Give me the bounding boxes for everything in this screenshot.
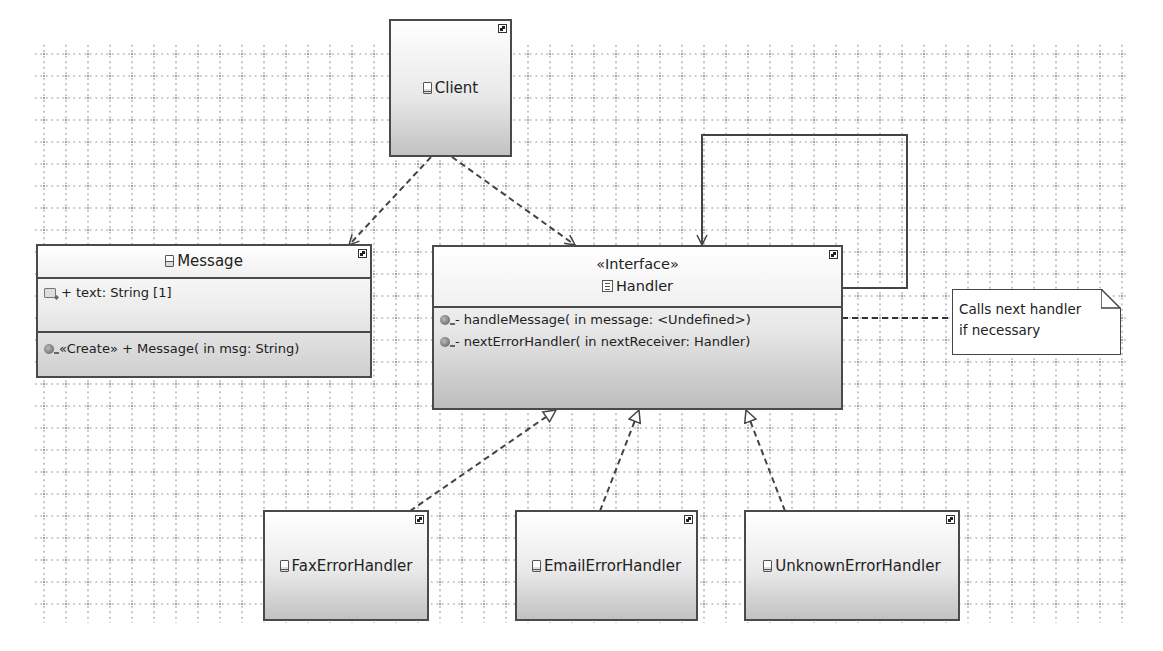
operation-row[interactable]: - nextErrorHandler( in nextReceiver: Han… [440, 331, 841, 353]
class-icon [165, 255, 174, 267]
class-name: FaxErrorHandler [292, 557, 413, 575]
class-fax-error-handler[interactable]: FaxErrorHandler [263, 510, 429, 621]
operation-row[interactable]: «Create» + Message( in msg: String) [44, 338, 370, 360]
interface-name: Handler [616, 278, 673, 294]
class-name: UnknownErrorHandler [775, 557, 940, 575]
note-fold-icon [1101, 289, 1121, 309]
realization-unknown [746, 410, 785, 511]
operation-row[interactable]: - handleMessage( in message: <Undefined>… [440, 309, 841, 331]
realization-email [600, 410, 639, 511]
shortcut-icon[interactable] [829, 250, 838, 259]
note-line: Calls next handler [959, 299, 1120, 320]
class-name: Client [435, 79, 478, 97]
operation-compartment: «Create» + Message( in msg: String) [38, 333, 370, 376]
class-icon [280, 560, 289, 572]
operation-icon [440, 315, 450, 325]
class-icon [532, 560, 541, 572]
class-client[interactable]: Client [389, 19, 512, 157]
stereotype-label: «Interface» [434, 253, 841, 275]
class-icon [423, 82, 432, 94]
attribute-compartment: + text: String [1] [38, 279, 370, 333]
class-unknown-error-handler[interactable]: UnknownErrorHandler [744, 510, 960, 621]
note-line: if necessary [959, 320, 1120, 341]
dependency-client-message [349, 157, 431, 245]
note-comment[interactable]: Calls next handler if necessary [952, 289, 1121, 355]
class-email-error-handler[interactable]: EmailErrorHandler [515, 510, 698, 621]
interface-icon [602, 280, 613, 292]
class-message[interactable]: Message + text: String [1] «Create» + Me… [36, 244, 372, 378]
operation-compartment: - handleMessage( in message: <Undefined>… [434, 308, 841, 353]
realization-fax [410, 410, 556, 511]
attribute-icon [44, 288, 56, 298]
attribute-row[interactable]: + text: String [1] [44, 282, 370, 304]
dependency-client-handler [452, 157, 575, 245]
interface-handler[interactable]: «Interface» Handler - handleMessage( in … [432, 245, 843, 410]
class-name: Message [177, 252, 243, 270]
class-name: EmailErrorHandler [544, 557, 681, 575]
shortcut-icon[interactable] [358, 249, 367, 258]
class-icon [763, 560, 772, 572]
operation-icon [44, 344, 54, 354]
operation-icon [440, 337, 450, 347]
